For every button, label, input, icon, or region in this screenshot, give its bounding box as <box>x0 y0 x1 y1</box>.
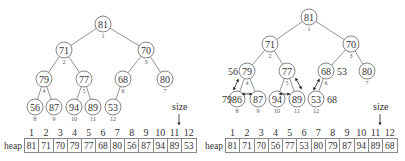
svg-text:87: 87 <box>253 94 263 105</box>
swap-annotation: 56 <box>228 66 238 77</box>
svg-text:12: 12 <box>313 108 319 114</box>
svg-text:68: 68 <box>321 66 331 77</box>
array-index: 4 <box>268 126 282 139</box>
svg-text:3: 3 <box>145 59 148 65</box>
array-index: 7 <box>311 126 325 139</box>
array-index: 6 <box>96 126 110 139</box>
array-index: 12 <box>182 126 196 139</box>
heap-node: 686 <box>115 71 131 94</box>
array-index: 9 <box>340 126 354 139</box>
array-cell: 89 <box>167 139 181 153</box>
array-cell: 53 <box>297 139 311 153</box>
array-cell: 71 <box>39 139 53 153</box>
heap-node: 879 <box>46 99 62 122</box>
array-cell: 89 <box>368 139 382 153</box>
tree-edge <box>355 51 363 64</box>
array-index: 7 <box>110 126 124 139</box>
tree-edge <box>316 21 345 39</box>
array-index: 3 <box>254 126 268 139</box>
tree-edge <box>274 51 282 64</box>
svg-text:81: 81 <box>304 12 314 23</box>
tree-edge <box>240 79 245 92</box>
heap-node: 807 <box>359 63 375 86</box>
array-cell: 87 <box>340 139 354 153</box>
tree-edge <box>116 87 121 100</box>
tree-edge <box>77 87 82 100</box>
array-cell: 94 <box>153 139 167 153</box>
array-cell: 81 <box>225 139 239 153</box>
heap-node: 811 <box>95 16 111 39</box>
array-index: 11 <box>167 126 181 139</box>
array-index: 2 <box>240 126 254 139</box>
svg-text:94: 94 <box>272 94 282 105</box>
svg-text:10: 10 <box>274 108 280 114</box>
array-cell: 81 <box>24 139 38 153</box>
svg-text:80: 80 <box>362 66 372 77</box>
svg-text:8: 8 <box>236 108 239 114</box>
array-index: 11 <box>368 126 382 139</box>
heap-node: 686 <box>318 63 334 86</box>
array-cell: 71 <box>240 139 254 153</box>
tree-edge <box>128 56 141 72</box>
tree-edge <box>290 79 295 92</box>
array-index: 5 <box>82 126 96 139</box>
svg-text:79: 79 <box>242 66 252 77</box>
svg-text:1: 1 <box>308 26 311 32</box>
heap-node: 811 <box>301 9 317 32</box>
tree-edge <box>86 87 90 100</box>
svg-text:86: 86 <box>232 94 242 105</box>
svg-text:12: 12 <box>110 116 116 122</box>
tree-edge <box>69 57 80 73</box>
heap-label: heap <box>4 139 24 153</box>
svg-text:7: 7 <box>164 88 167 94</box>
array-index: 5 <box>283 126 297 139</box>
svg-text:9: 9 <box>257 108 260 114</box>
tree-edge <box>110 28 139 46</box>
heap-node: 568 <box>27 99 43 122</box>
heap-node: 8911 <box>289 91 305 114</box>
svg-text:4: 4 <box>43 88 46 94</box>
array-index: 6 <box>297 126 311 139</box>
svg-text:6: 6 <box>122 88 125 94</box>
array-cell: 79 <box>67 139 81 153</box>
heap-node: 879 <box>250 91 266 114</box>
array-cell: 77 <box>283 139 297 153</box>
heap-node: 712 <box>56 42 72 65</box>
tree-edge <box>277 22 303 40</box>
swap-annotation: 68 <box>327 94 337 105</box>
array-index: 3 <box>53 126 67 139</box>
svg-text:5: 5 <box>286 80 289 86</box>
svg-text:4: 4 <box>246 80 249 86</box>
svg-text:87: 87 <box>49 102 59 113</box>
svg-text:77: 77 <box>79 74 89 85</box>
array-cell: 68 <box>96 139 110 153</box>
svg-text:7: 7 <box>366 80 369 86</box>
svg-text:53: 53 <box>311 94 321 105</box>
swap-arrow-icon <box>296 79 301 88</box>
svg-text:68: 68 <box>118 74 128 85</box>
array-cell: 80 <box>311 139 325 153</box>
array-cell: 94 <box>354 139 368 153</box>
svg-text:11: 11 <box>90 116 96 122</box>
heap-node: 703 <box>343 36 359 59</box>
array-index: 1 <box>24 126 38 139</box>
tree-edge <box>280 79 285 92</box>
heap-node: 8911 <box>85 99 101 122</box>
svg-text:3: 3 <box>350 53 353 59</box>
svg-text:10: 10 <box>71 116 77 122</box>
svg-text:11: 11 <box>294 108 300 114</box>
array-index: 10 <box>153 126 167 139</box>
heap-node: 794 <box>239 63 255 86</box>
svg-text:6: 6 <box>325 80 328 86</box>
array-index: 10 <box>354 126 368 139</box>
svg-text:71: 71 <box>59 45 69 56</box>
array-cell: 56 <box>268 139 282 153</box>
heap-node: 807 <box>157 71 173 94</box>
array-cell: 68 <box>383 139 397 153</box>
svg-text:9: 9 <box>53 116 56 122</box>
heap-node: 775 <box>76 71 92 94</box>
heap-label: heap <box>205 139 225 153</box>
tree-edge <box>150 57 160 73</box>
heap-node: 5312 <box>105 99 121 122</box>
array-cell: 77 <box>82 139 96 153</box>
